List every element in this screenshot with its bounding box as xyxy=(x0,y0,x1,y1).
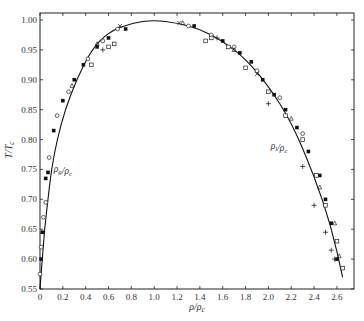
y-tick-label: 0.75 xyxy=(21,164,37,174)
filled-square-marker xyxy=(46,171,50,175)
x-axis-label: ρ/ρc xyxy=(188,301,205,314)
open-square-marker xyxy=(315,174,319,178)
filled-square-marker xyxy=(324,198,328,202)
filled-square-marker xyxy=(124,27,128,31)
x-tick-label: 0.6 xyxy=(103,292,115,302)
open-square-marker xyxy=(341,266,345,270)
open-square-marker xyxy=(284,114,288,118)
filled-square-marker xyxy=(295,126,299,130)
x-tick-label: 2.4 xyxy=(308,292,320,302)
y-tick-label: 1.00 xyxy=(21,15,37,25)
filled-square-marker xyxy=(249,60,253,64)
filled-square-marker xyxy=(284,108,288,112)
x-tick-label: 0.4 xyxy=(80,292,92,302)
x-tick-label: 1.8 xyxy=(240,292,252,302)
data-points xyxy=(38,21,344,276)
plus-marker xyxy=(100,47,105,52)
x-axis-ticks: 00.20.40.60.81.01.21.41.61.82.02.22.42.6 xyxy=(38,13,343,302)
filled-square-marker xyxy=(72,78,76,82)
triangle-marker xyxy=(333,221,337,225)
filled-square-marker xyxy=(61,99,65,103)
open-circle-marker xyxy=(55,114,59,118)
x-tick-label: 1.0 xyxy=(149,292,161,302)
plus-marker xyxy=(329,248,334,253)
x-tick-label: 2.2 xyxy=(286,292,297,302)
filled-square-marker xyxy=(39,257,43,261)
open-square-marker xyxy=(204,39,208,43)
open-square-marker xyxy=(267,90,271,94)
filled-square-marker xyxy=(82,63,86,67)
filled-square-marker xyxy=(238,51,242,55)
open-square-marker xyxy=(301,138,305,142)
filled-square-marker xyxy=(107,36,111,40)
y-tick-label: 0.70 xyxy=(21,194,37,204)
y-tick-label: 0.55 xyxy=(21,284,37,294)
open-circle-marker xyxy=(278,96,282,100)
open-circle-marker xyxy=(39,245,43,249)
y-axis-label: T/Tc xyxy=(3,141,16,159)
y-axis-ticks: 0.550.600.650.700.750.800.850.900.951.00 xyxy=(21,15,354,294)
open-square-marker xyxy=(107,45,111,49)
filled-square-marker xyxy=(307,150,311,154)
open-square-marker xyxy=(112,42,116,46)
open-circle-marker xyxy=(47,156,51,160)
x-tick-label: 0.8 xyxy=(126,292,138,302)
filled-square-marker xyxy=(40,230,44,234)
fit-curve xyxy=(40,21,343,289)
plus-marker xyxy=(266,101,271,106)
curve-labels: ρg/ρcρl/ρc xyxy=(53,141,289,179)
open-circle-marker xyxy=(38,272,42,276)
x-tick-label: 0.2 xyxy=(57,292,68,302)
open-square-marker xyxy=(90,63,94,67)
plus-marker xyxy=(312,203,317,208)
x-tick-label: 1.6 xyxy=(217,292,229,302)
triangle-marker xyxy=(289,116,293,120)
curve-label: ρl/ρc xyxy=(270,141,289,155)
open-circle-marker xyxy=(44,200,48,204)
plus-marker xyxy=(300,164,305,169)
x-tick-label: 2.6 xyxy=(331,292,343,302)
x-tick-label: 1.2 xyxy=(171,292,182,302)
filled-square-marker xyxy=(52,129,56,133)
filled-square-marker xyxy=(261,78,265,82)
open-square-marker xyxy=(227,45,231,49)
y-tick-label: 0.65 xyxy=(21,224,37,234)
open-square-marker xyxy=(244,66,248,70)
filled-square-marker xyxy=(272,93,276,97)
open-square-marker xyxy=(210,36,214,40)
y-tick-label: 0.80 xyxy=(21,135,37,145)
curve-label: ρg/ρc xyxy=(53,164,73,178)
filled-square-marker xyxy=(318,174,322,178)
y-tick-label: 0.60 xyxy=(21,254,37,264)
open-square-marker xyxy=(324,204,328,208)
x-tick-label: 2.0 xyxy=(263,292,275,302)
x-tick-label: 0 xyxy=(38,292,43,302)
filled-square-marker xyxy=(44,177,48,181)
open-circle-marker xyxy=(67,90,71,94)
filled-square-marker xyxy=(221,39,225,43)
open-circle-marker xyxy=(86,57,90,61)
open-square-marker xyxy=(335,239,339,243)
open-circle-marker xyxy=(101,39,105,43)
filled-square-marker xyxy=(192,24,196,28)
plus-marker xyxy=(323,230,328,235)
y-tick-label: 0.90 xyxy=(21,75,37,85)
open-circle-marker xyxy=(42,215,46,219)
triangle-marker xyxy=(70,84,74,88)
open-circle-marker xyxy=(187,24,191,28)
open-circle-marker xyxy=(301,132,305,136)
y-tick-label: 0.95 xyxy=(21,45,37,55)
y-tick-label: 0.85 xyxy=(21,105,37,115)
coexistence-chart: 00.20.40.60.81.01.21.41.61.82.02.22.42.6… xyxy=(0,0,364,321)
open-circle-marker xyxy=(116,27,120,31)
